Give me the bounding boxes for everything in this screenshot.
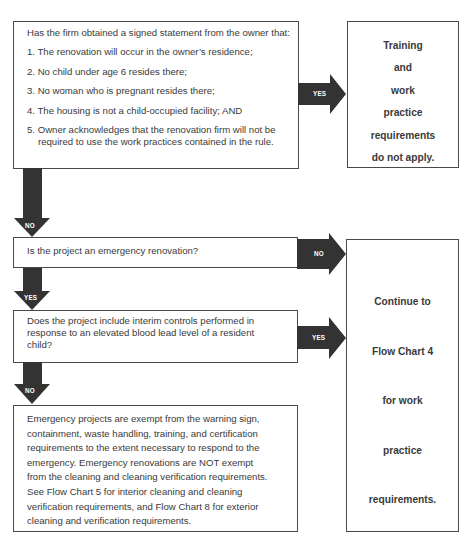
result-line: requirements — [371, 125, 436, 147]
arrow-label: YES — [313, 90, 326, 97]
question-box-emergency: Is the project an emergency renovation? — [13, 237, 298, 268]
question-line: Does the project include interim control… — [27, 315, 297, 327]
result-line: for work — [369, 376, 436, 426]
result-line: requirements. — [369, 475, 436, 525]
info-line: emergency. Emergency renovations are NOT… — [27, 456, 297, 471]
yes-arrow-down: YES — [13, 268, 51, 311]
no-arrow-down-2: NO — [13, 362, 51, 405]
arrow-label: YES — [312, 334, 325, 341]
arrow-down-icon — [13, 362, 51, 405]
no-arrow-down: NO — [13, 168, 51, 238]
arrow-label: NO — [314, 250, 324, 257]
result-line: practice — [369, 426, 436, 476]
result-box-not-apply: Training and work practice requirements … — [347, 21, 459, 168]
no-arrow-right: NO — [297, 233, 347, 275]
question-box-interim-controls: Does the project include interim control… — [13, 310, 298, 363]
question-line: response to an elevated blood lead level… — [27, 327, 297, 339]
arrow-label: YES — [24, 294, 37, 301]
result-line: do not apply. — [371, 147, 436, 169]
condition-3: 3. No woman who is pregnant resides ther… — [27, 85, 298, 97]
condition-2: 2. No child under age 6 resides there; — [27, 66, 298, 78]
result-text: Continue to Flow Chart 4 for work practi… — [369, 277, 436, 525]
result-line: Training — [371, 35, 436, 57]
info-line: requirements to the extent necessary to … — [27, 441, 297, 456]
result-line: work — [371, 80, 436, 102]
info-line: containment, waste handling, training, a… — [27, 427, 297, 442]
condition-5-line2: required to use the work practices conta… — [27, 136, 298, 148]
info-line: Emergency projects are exempt from the w… — [27, 412, 297, 427]
result-line: practice — [371, 102, 436, 124]
yes-arrow-right-2: YES — [297, 317, 347, 359]
question-intro: Has the firm obtained a signed statement… — [27, 27, 298, 39]
result-text: Training and work practice requirements … — [371, 35, 436, 169]
info-line: from the cleaning and cleaning verificat… — [27, 470, 297, 485]
info-line: See Flow Chart 5 for interior cleaning a… — [27, 485, 297, 500]
result-line: Flow Chart 4 — [369, 327, 436, 377]
condition-1: 1. The renovation will occur in the owne… — [27, 46, 298, 58]
info-line: cleaning and verification requirements. — [27, 514, 297, 529]
question-line: child? — [27, 339, 297, 351]
arrow-label: NO — [25, 222, 35, 229]
yes-arrow-right: YES — [298, 74, 348, 114]
question-box-signed-statement: Has the firm obtained a signed statement… — [13, 21, 299, 169]
condition-5-line1: 5. Owner acknowledges that the renovatio… — [27, 124, 276, 135]
info-line: verification requirements, and Flow Char… — [27, 500, 297, 515]
arrow-down-icon — [13, 268, 51, 311]
question-text: Is the project an emergency renovation? — [27, 245, 198, 256]
result-line: and — [371, 57, 436, 79]
condition-5: 5. Owner acknowledges that the renovatio… — [27, 124, 298, 148]
info-box-emergency-exemption: Emergency projects are exempt from the w… — [13, 405, 298, 532]
result-line: Continue to — [369, 277, 436, 327]
arrow-label: NO — [25, 387, 35, 394]
result-box-flow-chart-4: Continue to Flow Chart 4 for work practi… — [346, 239, 459, 532]
condition-4: 4. The housing is not a child-occupied f… — [27, 105, 298, 117]
